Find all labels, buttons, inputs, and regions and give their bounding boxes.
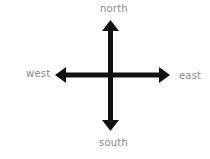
compass-diagram: north west east south <box>0 0 210 159</box>
east-label: east <box>179 70 201 82</box>
north-label: north <box>100 3 128 15</box>
south-label: south <box>99 137 128 149</box>
west-label: west <box>26 68 50 80</box>
